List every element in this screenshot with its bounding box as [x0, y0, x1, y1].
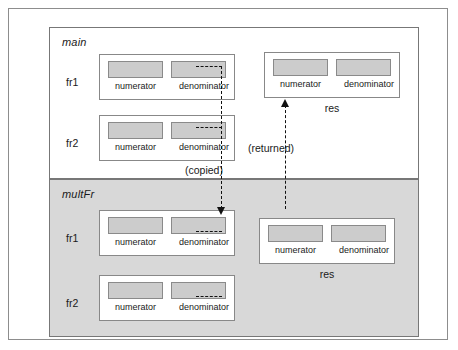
main-res-numerator-cell	[273, 59, 328, 76]
returned-edge-trunk	[285, 105, 286, 209]
main-fr2-numerator-cell	[108, 122, 163, 139]
main-fr1-denominator-cell	[171, 61, 226, 78]
multfr-fr2-label: fr2	[66, 297, 78, 309]
main-res-numerator-label: numerator	[269, 79, 332, 89]
multfr-fr1-label: fr1	[66, 232, 78, 244]
multfr-fr1-numerator-label: numerator	[104, 237, 167, 247]
main-fr1-numerator-cell	[108, 61, 163, 78]
multfr-res-numerator-label: numerator	[264, 245, 327, 255]
main-fr1-denominator-label: denominator	[165, 81, 243, 91]
copied-edge-arrowhead-icon	[217, 207, 225, 215]
outer-page-border: main fr1 numerator denominator fr2 numer…	[8, 8, 448, 340]
copied-edge-stub-multfr-fr1	[196, 231, 222, 232]
multfr-fr2-struct: numerator denominator	[99, 275, 235, 321]
returned-edge-arrowhead-icon	[281, 99, 289, 107]
copied-edge-stub-fr2	[196, 127, 222, 128]
copied-edge-trunk	[221, 66, 222, 209]
diagram-canvas: main fr1 numerator denominator fr2 numer…	[0, 0, 458, 350]
multfr-fr1-denominator-label: denominator	[165, 237, 243, 247]
multfr-res-denominator-label: denominator	[325, 245, 403, 255]
main-fr1-struct: numerator denominator	[99, 54, 235, 100]
main-fr1-numerator-label: numerator	[104, 81, 167, 91]
copied-edge-stub-fr1	[196, 66, 222, 67]
multfr-res-caption: res	[259, 268, 395, 280]
stack-frame-multfr: multFr fr1 numerator denominator fr2 num…	[49, 179, 419, 337]
stack-frame-main: main fr1 numerator denominator fr2 numer…	[49, 27, 419, 179]
multfr-res-numerator-cell	[268, 225, 323, 242]
multfr-res-struct: numerator denominator	[259, 218, 395, 264]
multfr-fr2-denominator-label: denominator	[165, 302, 243, 312]
main-fr2-denominator-cell	[171, 122, 226, 139]
stack-frame-main-title: main	[62, 36, 87, 48]
main-res-denominator-cell	[336, 59, 391, 76]
multfr-res-denominator-cell	[331, 225, 386, 242]
main-res-struct: numerator denominator	[264, 52, 400, 98]
copied-edge-label: (copied)	[185, 164, 223, 176]
main-fr2-denominator-label: denominator	[165, 142, 243, 152]
main-fr1-label: fr1	[66, 76, 78, 88]
main-fr2-numerator-label: numerator	[104, 142, 167, 152]
copied-edge-stub-multfr-fr2	[196, 296, 222, 297]
multfr-fr1-struct: numerator denominator	[99, 210, 235, 256]
returned-edge-label: (returned)	[248, 142, 294, 154]
multfr-fr2-numerator-label: numerator	[104, 302, 167, 312]
multfr-fr1-numerator-cell	[108, 217, 163, 234]
stack-frame-multfr-title: multFr	[62, 188, 94, 200]
main-res-denominator-label: denominator	[330, 79, 408, 89]
multfr-fr2-numerator-cell	[108, 282, 163, 299]
main-fr2-label: fr2	[66, 137, 78, 149]
main-fr2-struct: numerator denominator	[99, 115, 235, 161]
